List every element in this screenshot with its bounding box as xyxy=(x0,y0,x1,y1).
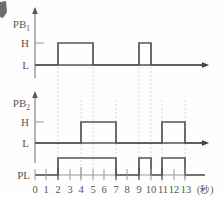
tick-label-7: 7 xyxy=(113,184,118,195)
tick-label-2: 2 xyxy=(55,184,60,195)
tick-label-12: 12 xyxy=(169,184,180,195)
pl-waveform xyxy=(35,158,205,175)
tick-label-9: 9 xyxy=(136,184,141,195)
page-edge-artifact xyxy=(0,1,7,18)
pb1-y-axis-arrow-icon xyxy=(32,7,38,14)
tick-label-11: 11 xyxy=(158,184,168,195)
pb2-label-high: H xyxy=(21,116,29,128)
time-unit-label: (秒) xyxy=(197,184,213,196)
tick-label-10: 10 xyxy=(146,184,157,195)
pb1-label-low: L xyxy=(22,59,29,71)
pl-signal-label: PL xyxy=(17,169,30,181)
timing-diagram-canvas: PB1 H L PB2 H L PL 0 1 2 3 xyxy=(0,0,224,197)
pb2-label-low: L xyxy=(22,137,29,149)
pb1-signal-label: PB1 xyxy=(13,18,30,33)
tick-label-5: 5 xyxy=(90,184,95,195)
timing-diagram-figure: PB1 H L PB2 H L PL 0 1 2 3 xyxy=(0,0,224,197)
pb2-waveform xyxy=(35,122,205,143)
tick-label-1: 1 xyxy=(43,184,48,195)
tick-label-3: 3 xyxy=(67,184,72,195)
tick-label-6: 6 xyxy=(101,184,106,195)
tick-label-4: 4 xyxy=(78,184,84,195)
time-axis-ticks xyxy=(35,167,185,180)
tick-label-0: 0 xyxy=(32,184,37,195)
pb1-waveform xyxy=(35,43,205,65)
pb2-y-axis-arrow-icon xyxy=(32,91,38,98)
tick-label-13: 13 xyxy=(181,184,192,195)
pb1-label-high: H xyxy=(21,37,29,49)
tick-label-8: 8 xyxy=(124,184,129,195)
guide-lines-group xyxy=(58,43,185,182)
pb2-signal-label: PB2 xyxy=(13,97,30,112)
time-axis-tick-labels: 0 1 2 3 4 5 6 7 8 9 10 11 12 13 xyxy=(32,184,191,195)
